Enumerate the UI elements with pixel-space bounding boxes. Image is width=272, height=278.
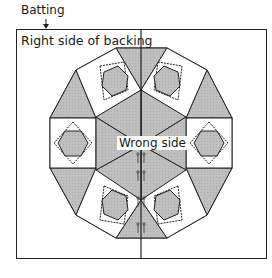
square-unit-right — [186, 118, 232, 168]
backing-label: Right side of backing — [21, 34, 153, 48]
square-unit-left — [50, 118, 96, 168]
batting-arrow-icon — [43, 19, 49, 29]
wrong-side-label: Wrong side — [117, 136, 188, 150]
